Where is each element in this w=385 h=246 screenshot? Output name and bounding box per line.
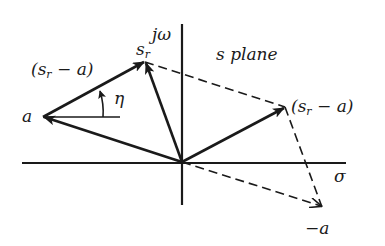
angle-eta-label: η: [114, 88, 125, 108]
point-neg-a-label: −a: [305, 218, 329, 238]
vector-origin-to-a: [44, 117, 182, 162]
s-plane-diagram: jω s plane σ a sr (sr − a) (sr − a) −a η: [0, 0, 385, 246]
point-sr-label: sr: [136, 39, 151, 61]
dashed-right-vector-to-neg-a: [285, 107, 322, 207]
angle-eta-arc: [100, 91, 103, 117]
dashed-sr-to-right-vector: [145, 62, 285, 107]
point-a-label: a: [22, 106, 32, 126]
sr-minus-a-right-label: (sr − a): [291, 96, 353, 118]
sigma-axis-label: σ: [334, 166, 346, 186]
sr-subscript: r: [145, 48, 151, 61]
jw-axis-label: jω: [148, 24, 171, 44]
vector-origin-to-sr-minus-a: [182, 108, 284, 162]
s-plane-label: s plane: [216, 44, 278, 64]
vector-origin-to-sr: [146, 63, 182, 162]
sr-minus-a-left-suffix: − a): [52, 59, 94, 79]
sr-minus-a-right-suffix: − a): [312, 96, 354, 116]
s-plane-label-text: s plane: [216, 44, 278, 64]
dashed-origin-to-neg-a-arrow: [182, 162, 321, 206]
sr-base: s: [136, 39, 145, 59]
sr-minus-a-right-prefix: (s: [291, 96, 307, 116]
sr-minus-a-left-label: (sr − a): [31, 59, 93, 81]
sr-minus-a-left-prefix: (s: [31, 59, 47, 79]
